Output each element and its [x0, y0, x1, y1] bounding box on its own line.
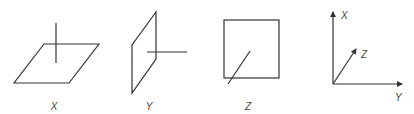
z-axis-label: Z	[360, 49, 368, 60]
front-square-plane	[224, 20, 279, 78]
plane-orientation-diagram: X Y Z X Z Y	[0, 0, 414, 114]
y-axis-label: Y	[395, 92, 403, 103]
panel-x-label: X	[50, 101, 58, 112]
panel-z: Z	[224, 20, 279, 112]
x-axis-label: X	[340, 10, 348, 21]
panel-y: Y	[132, 12, 187, 112]
panel-x: X	[14, 23, 99, 112]
panel-y-label: Y	[146, 101, 154, 112]
panel-z-label: Z	[244, 101, 252, 112]
normal-line-diagonal	[228, 51, 250, 84]
z-axis-arrow	[333, 49, 356, 84]
coordinate-axes: X Z Y	[333, 10, 403, 103]
